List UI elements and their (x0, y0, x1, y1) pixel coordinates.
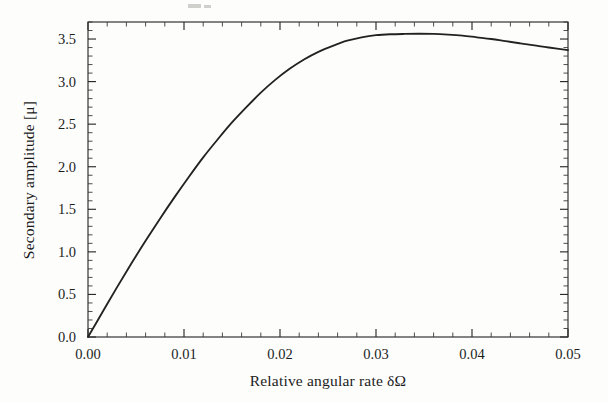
x-tick-label: 0.02 (267, 346, 292, 362)
x-tick-label: 0.03 (363, 346, 388, 362)
y-tick-label: 2.5 (58, 116, 76, 132)
y-tick-label: 2.0 (58, 159, 76, 175)
y-tick-label: 3.5 (58, 31, 76, 47)
chart-canvas: 0.000.010.020.030.040.05 0.00.51.01.52.0… (0, 0, 608, 402)
y-tick-label: 1.0 (58, 244, 76, 260)
y-axis-title: Secondary amplitude [μ] (20, 101, 37, 259)
x-tick-label: 0.04 (459, 346, 485, 362)
x-tick-label: 0.05 (555, 346, 580, 362)
x-axis-title: Relative angular rate δΩ (250, 372, 407, 389)
y-tick-label: 0.0 (58, 329, 76, 345)
figure-container: 0.000.010.020.030.040.05 0.00.51.01.52.0… (0, 0, 608, 402)
y-tick-label: 0.5 (58, 286, 76, 302)
y-tick-label: 1.5 (58, 201, 76, 217)
y-tick-label: 3.0 (58, 74, 76, 90)
x-tick-label: 0.00 (75, 346, 100, 362)
x-tick-label: 0.01 (171, 346, 196, 362)
